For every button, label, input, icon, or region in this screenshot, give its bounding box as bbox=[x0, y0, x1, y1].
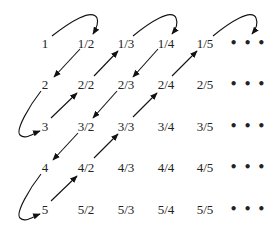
ellipsis-row-1: • • • bbox=[230, 37, 266, 49]
cell-3-5: 3/5 bbox=[197, 120, 214, 133]
cell-2-3: 2/3 bbox=[118, 78, 135, 91]
cell-5-4: 5/4 bbox=[158, 203, 175, 216]
cell-3-2: 3/2 bbox=[78, 120, 95, 133]
cell-2-4: 2/4 bbox=[158, 78, 175, 91]
ellipsis-row-4: • • • bbox=[230, 161, 266, 173]
arrow-1-3-to-1-4 bbox=[133, 15, 177, 36]
cell-5-3: 5/3 bbox=[118, 203, 135, 216]
arrow-3-to-2-2 bbox=[51, 93, 77, 118]
cell-3-3: 3/3 bbox=[118, 120, 135, 133]
cell-5-1: 5 bbox=[42, 203, 49, 216]
arrow-1-to-1-2 bbox=[52, 15, 98, 36]
arrow-3-3-to-2-4 bbox=[133, 93, 157, 117]
cantor-diagram: 1 1/2 1/3 1/4 1/5 • • • 2 2/2 2/3 2/4 2/… bbox=[0, 0, 273, 247]
cell-5-2: 5/2 bbox=[78, 203, 95, 216]
ellipsis-row-5: • • • bbox=[230, 203, 266, 215]
cell-1-3: 1/3 bbox=[118, 37, 135, 50]
cell-5-5: 5/5 bbox=[197, 203, 214, 216]
cell-3-4: 3/4 bbox=[158, 120, 175, 133]
arrow-2-to-3 bbox=[19, 91, 41, 137]
ellipsis-row-2: • • • bbox=[230, 78, 266, 90]
cell-2-5: 2/5 bbox=[197, 78, 214, 91]
cell-4-1: 4 bbox=[42, 161, 49, 174]
arrow-3-2-to-4 bbox=[53, 133, 78, 160]
cell-4-2: 4/2 bbox=[78, 161, 95, 174]
arrow-2-2-to-1-3 bbox=[94, 51, 118, 76]
cell-1-4: 1/4 bbox=[158, 37, 175, 50]
arrow-1-5-to-dots bbox=[213, 15, 257, 36]
cell-1-2: 1/2 bbox=[78, 37, 95, 50]
arrow-1-4-to-2-3 bbox=[133, 49, 158, 77]
cell-1-1: 1 bbox=[42, 37, 49, 50]
cell-3-1: 3 bbox=[42, 120, 49, 133]
arrow-5-to-4-2 bbox=[51, 176, 77, 201]
arrow-2-3-to-3-2 bbox=[93, 91, 117, 118]
cell-4-3: 4/3 bbox=[118, 161, 135, 174]
cell-1-5: 1/5 bbox=[197, 37, 214, 50]
arrow-2-4-to-1-5 bbox=[172, 51, 197, 76]
cell-2-2: 2/2 bbox=[78, 78, 95, 91]
arrow-1-2-to-2 bbox=[54, 49, 80, 77]
cell-4-4: 4/4 bbox=[158, 161, 175, 174]
arrow-4-to-5 bbox=[19, 174, 41, 220]
ellipsis-row-3: • • • bbox=[230, 120, 266, 132]
arrow-4-2-to-3-3 bbox=[94, 134, 118, 158]
cell-2-1: 2 bbox=[42, 78, 49, 91]
cell-4-5: 4/5 bbox=[197, 161, 214, 174]
